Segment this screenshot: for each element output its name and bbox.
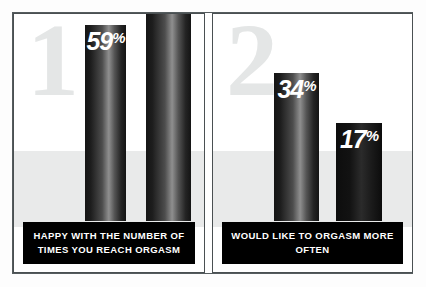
chart-panel-1: 1 59% 66% HAPPY WITH THE NUMBER OF TIMES… [13, 13, 205, 273]
panel-2-bar-17-number: 17 [340, 125, 366, 153]
panel-2-bar-17: 17% [336, 123, 382, 221]
panel-2-bar-34-percent-sign: % [303, 77, 315, 94]
panel-2-bar-34: 34% [274, 73, 319, 221]
panel-2-bar-34-number: 34 [277, 75, 303, 103]
panel-1-number-watermark: 1 [27, 13, 77, 112]
panel-2-bar-17-value: 17% [336, 127, 382, 152]
panel-1-bar-59-value: 59% [85, 29, 126, 54]
panel-2-bar-17-percent-sign: % [366, 127, 378, 144]
panel-1-bar-59-percent-sign: % [112, 29, 124, 46]
chart-canvas: 1 59% 66% HAPPY WITH THE NUMBER OF TIMES… [0, 0, 426, 287]
panel-1-bar-59: 59% [85, 25, 126, 221]
panel-1-bar-59-number: 59 [86, 27, 112, 55]
panel-1-caption: HAPPY WITH THE NUMBER OF TIMES YOU REACH… [23, 222, 195, 264]
panel-2-number-watermark: 2 [226, 13, 276, 112]
panel-2-bar-34-value: 34% [274, 77, 319, 102]
chart-panel-2: 2 34% 17% WOULD LIKE TO ORGASM MORE OFTE… [212, 13, 413, 273]
panel-1-bar-66: 66% [146, 13, 191, 221]
panel-2-caption: WOULD LIKE TO ORGASM MORE OFTEN [222, 222, 403, 264]
